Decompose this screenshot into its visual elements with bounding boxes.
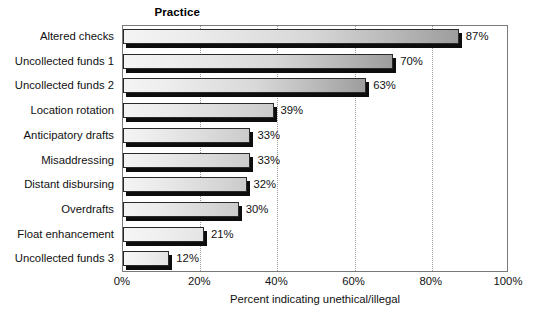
x-tick-label: 20% xyxy=(188,275,211,287)
bar-row: 63% xyxy=(123,75,507,100)
bar xyxy=(123,78,366,93)
category-label: Overdrafts xyxy=(0,203,118,215)
x-tick-label: 100% xyxy=(494,275,523,287)
bar xyxy=(123,153,250,168)
bar xyxy=(123,227,204,242)
bar-chart: Practice Altered checksUncollected funds… xyxy=(0,0,533,322)
bar xyxy=(123,29,459,44)
bar-value-label: 12% xyxy=(176,250,199,266)
bar-value-label: 21% xyxy=(211,226,234,242)
bar xyxy=(123,103,274,118)
x-tick-label: 60% xyxy=(342,275,365,287)
bar xyxy=(123,128,250,143)
category-label: Distant disbursing xyxy=(0,178,118,190)
bar-row: 33% xyxy=(123,125,507,150)
x-axis-tick-labels: 0%20%40%60%80%100% xyxy=(0,275,533,291)
category-label-column: Altered checksUncollected funds 1Uncolle… xyxy=(0,25,118,272)
category-axis-title: Practice xyxy=(80,6,200,18)
bar-value-label: 30% xyxy=(246,201,269,217)
bar-value-label: 39% xyxy=(281,102,304,118)
bar-value-label: 33% xyxy=(257,127,280,143)
bar-row: 32% xyxy=(123,174,507,199)
bar-row: 21% xyxy=(123,224,507,249)
bar-row: 39% xyxy=(123,100,507,125)
bar-row: 12% xyxy=(123,248,507,272)
category-label: Location rotation xyxy=(0,104,118,116)
bar-row: 33% xyxy=(123,150,507,175)
x-tick-label: 0% xyxy=(114,275,130,287)
bar-row: 87% xyxy=(123,26,507,51)
category-label: Uncollected funds 1 xyxy=(0,55,118,67)
bar xyxy=(123,202,239,217)
bar xyxy=(123,177,247,192)
x-tick-label: 40% xyxy=(265,275,288,287)
bar-value-label: 87% xyxy=(466,28,489,44)
category-label: Float enhancement xyxy=(0,228,118,240)
category-label: Uncollected funds 2 xyxy=(0,79,118,91)
bar-value-label: 33% xyxy=(257,152,280,168)
category-label: Uncollected funds 3 xyxy=(0,252,118,264)
bar-value-label: 70% xyxy=(400,53,423,69)
bar xyxy=(123,251,169,266)
bar xyxy=(123,54,393,69)
category-label: Anticipatory drafts xyxy=(0,129,118,141)
plot-area: 87%70%63%39%33%33%32%30%21%12% xyxy=(122,25,508,272)
x-axis-title: Percent indicating unethical/illegal xyxy=(122,293,508,305)
bar-value-label: 63% xyxy=(373,77,396,93)
bar-value-label: 32% xyxy=(254,176,277,192)
bar-row: 30% xyxy=(123,199,507,224)
category-label: Altered checks xyxy=(0,30,118,42)
x-tick-label: 80% xyxy=(419,275,442,287)
bar-row: 70% xyxy=(123,51,507,76)
category-label: Misaddressing xyxy=(0,154,118,166)
